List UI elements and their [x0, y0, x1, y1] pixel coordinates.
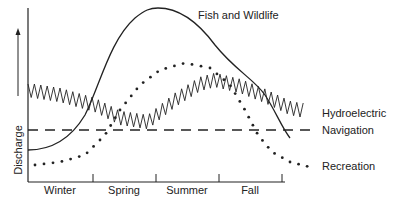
recreation-line [34, 62, 309, 168]
recreation-label: Recreation [322, 160, 375, 172]
fish-wildlife-line [28, 8, 290, 150]
arrow-head-icon [16, 28, 21, 35]
x-label-spring: Spring [108, 184, 140, 196]
discharge-chart: Discharge Fish and Wildlife Hydroelectri… [0, 0, 411, 206]
x-label-fall: Fall [241, 184, 259, 196]
fish-wildlife-label: Fish and Wildlife [198, 9, 279, 21]
x-label-winter: Winter [44, 184, 76, 196]
y-axis-label: Discharge [12, 125, 24, 175]
hydroelectric-line [28, 73, 303, 128]
navigation-label: Navigation [322, 124, 374, 136]
hydroelectric-label: Hydroelectric [322, 107, 387, 119]
x-label-summer: Summer [166, 184, 208, 196]
